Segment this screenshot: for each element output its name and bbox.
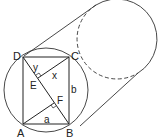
right-angle-mark-f: [51, 105, 56, 108]
label-x: x: [52, 70, 57, 81]
label-f: F: [57, 95, 63, 106]
top-tangent-line: [24, 5, 96, 56]
label-c: C: [71, 50, 79, 62]
bottom-tangent-line: [80, 73, 138, 126]
label-b-side: b: [71, 84, 77, 95]
label-b: B: [66, 127, 73, 139]
label-e: E: [30, 80, 37, 91]
back-face-dashed-arc: [77, 5, 138, 79]
label-a-segment: a: [44, 114, 50, 125]
label-a: A: [17, 127, 25, 139]
back-face-solid-arc: [96, 0, 157, 73]
right-angle-mark-e: [36, 73, 41, 76]
label-d: D: [13, 50, 21, 62]
cylinder-diagram: D C A B E F y x b a: [0, 0, 158, 139]
label-y: y: [33, 62, 38, 73]
